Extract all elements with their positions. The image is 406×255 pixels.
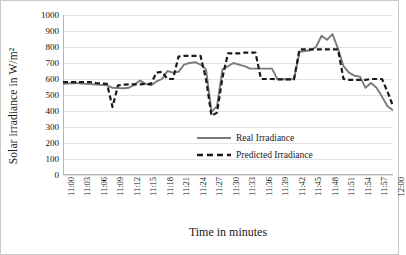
y-axis-tick-label: 500 <box>46 91 60 100</box>
y-axis-tick-labels: 10009008007006005004003002001000 <box>25 15 61 175</box>
x-axis-tick-label: 11:51 <box>347 177 356 196</box>
x-axis-tick-label: 11:18 <box>166 177 175 196</box>
series-line <box>63 49 393 115</box>
x-axis-tick-label: 11:15 <box>149 177 158 196</box>
y-axis-tick-label: 1000 <box>41 11 59 20</box>
chart-legend: Real IrradiancePredicted Irradiance <box>197 129 367 163</box>
x-axis-tick-label: 11:48 <box>331 177 340 196</box>
y-axis-tick-label: 800 <box>46 43 60 52</box>
x-axis-tick-label: 11:30 <box>232 177 241 196</box>
x-axis-tick-label: 11:57 <box>380 177 389 196</box>
gridline <box>63 175 393 176</box>
y-axis-tick-label: 300 <box>46 123 60 132</box>
x-axis-tick-label: 11:27 <box>215 177 224 196</box>
y-axis-tick-label: 900 <box>46 27 60 36</box>
y-axis-tick-label: 400 <box>46 107 60 116</box>
x-axis-tick-label: 11:45 <box>314 177 323 196</box>
x-axis-tick-label: 11:12 <box>133 177 142 196</box>
x-axis-tick-label: 11:06 <box>100 177 109 196</box>
x-axis-tick-label: 11:09 <box>116 177 125 196</box>
x-axis-title-label: Time in minutes <box>189 225 267 239</box>
x-axis-tick-label: 11:36 <box>265 177 274 196</box>
x-axis-tick-label: 11:21 <box>182 177 191 196</box>
y-axis-tick-label: 700 <box>46 59 60 68</box>
x-axis-title: Time in minutes <box>63 225 393 240</box>
legend-item[interactable]: Real Irradiance <box>197 129 367 146</box>
legend-item[interactable]: Predicted Irradiance <box>197 146 367 163</box>
x-axis-tick-labels: 11:0011:0311:0611:0911:1211:1511:1811:21… <box>63 177 393 219</box>
y-axis-tick-label: 100 <box>46 155 60 164</box>
y-axis-title-label: Solar irradiance in W/m² <box>7 48 19 164</box>
y-axis-tick-label: 200 <box>46 139 60 148</box>
x-axis-tick-label: 11:54 <box>364 177 373 196</box>
legend-label: Real Irradiance <box>236 133 294 143</box>
y-axis-title: Solar irradiance in W/m² <box>1 1 25 211</box>
x-axis-tick-label: 11:42 <box>298 177 307 196</box>
x-axis-tick-label: 11:03 <box>83 177 92 196</box>
y-axis-tick-label: 0 <box>55 171 60 180</box>
x-axis-tick-label: 12:00 <box>397 177 406 196</box>
legend-label: Predicted Irradiance <box>236 150 313 160</box>
x-axis-tick-label: 11:33 <box>248 177 257 196</box>
y-axis-tick-label: 600 <box>46 75 60 84</box>
x-axis-tick-label: 11:00 <box>67 177 76 196</box>
x-axis-tick-label: 11:24 <box>199 177 208 196</box>
legend-swatch-icon <box>197 150 231 160</box>
legend-swatch-icon <box>197 133 231 143</box>
x-axis-tick-label: 11:39 <box>281 177 290 196</box>
series-line <box>63 34 393 112</box>
